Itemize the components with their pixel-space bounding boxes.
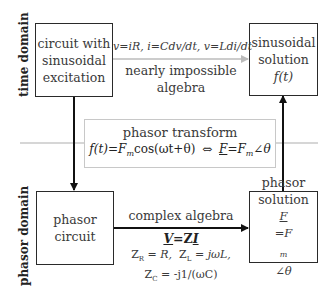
phasor-solution-line-1: phasor — [262, 174, 305, 191]
time-solution-line-2: solution — [258, 51, 309, 68]
phasor-solution-formula: F=Fm∠θ — [275, 208, 293, 280]
time-solution-formula: f(t) — [274, 68, 293, 85]
phasor-circuit-box: phasor circuit — [36, 191, 114, 265]
phasor-solution-box: phasor solution F=Fm∠θ — [249, 191, 318, 263]
equivalence-symbol: ⇔ — [202, 142, 212, 156]
zc-value: = -j1/(ωC) — [158, 268, 218, 281]
impedance-c: ZC = -j1/(ωC) — [113, 268, 249, 283]
time-solution-line-1: sinusoidal — [252, 34, 316, 51]
ohm-V: V — [163, 231, 173, 246]
zr-value: = R, — [144, 248, 172, 261]
time-circuit-box: circuit with sinusoidal excitation — [35, 23, 113, 97]
ohms-law-phasor: V=ZI — [113, 231, 249, 246]
transform-rhs-angle: ∠θ — [253, 142, 270, 156]
phasor-solution-line-2: solution — [258, 191, 309, 208]
phasor-circuit-line-2: circuit — [54, 228, 95, 245]
ohm-mid: =Z — [173, 231, 193, 246]
time-domain-equations: v=iR, i=Cdv/dt, v=Ldi/dt — [113, 40, 249, 53]
phasor-arrow-label: complex algebra — [113, 208, 249, 223]
phasor-analysis-diagram: time domain phasor domain circuit with s… — [0, 0, 336, 301]
zl-value: = jωL, — [191, 248, 230, 261]
phasor-transform-formula: f(t)=Fmcos(ωt+θ) ⇔ F=Fm∠θ — [85, 142, 275, 158]
phasor-solution-sub: m — [280, 250, 288, 259]
phasor-transform-title: phasor transform — [85, 125, 275, 140]
phasor-circuit-line-1: phasor — [53, 211, 96, 228]
transform-lhs-sub: m — [126, 149, 134, 158]
phasor-transform-box: phasor transform f(t)=Fmcos(ωt+θ) ⇔ F=Fm… — [84, 119, 276, 168]
zc-symbol: Z — [144, 268, 152, 281]
time-circuit-line-3: excitation — [43, 69, 106, 86]
time-domain-label: time domain — [17, 12, 31, 97]
time-arrow-label-line-1: nearly impossible — [113, 62, 249, 79]
transform-lhs: f(t)=F — [89, 142, 126, 156]
phasor-domain-label: phasor domain — [17, 186, 31, 286]
time-circuit-line-1: circuit with — [38, 35, 111, 52]
ohm-I: I — [193, 231, 199, 246]
time-domain-arrow-label: nearly impossible algebra — [113, 62, 249, 96]
time-arrow-label-line-2: algebra — [113, 79, 249, 96]
phasor-solution-F: F — [280, 209, 288, 223]
phasor-solution-eq: =F — [275, 225, 293, 242]
transform-lhs-rest: cos(ωt+θ) — [134, 142, 195, 156]
time-circuit-line-2: sinusoidal — [42, 52, 106, 69]
zr-symbol: Z — [131, 248, 139, 261]
transform-rhs-rest: =F — [227, 142, 245, 156]
time-solution-box: sinusoidal solution f(t) — [249, 23, 318, 96]
phasor-solution-angle: ∠θ — [275, 263, 293, 280]
impedance-r-l: ZR = R, ZL = jωL, — [113, 248, 249, 263]
zl-symbol: Z — [179, 248, 187, 261]
